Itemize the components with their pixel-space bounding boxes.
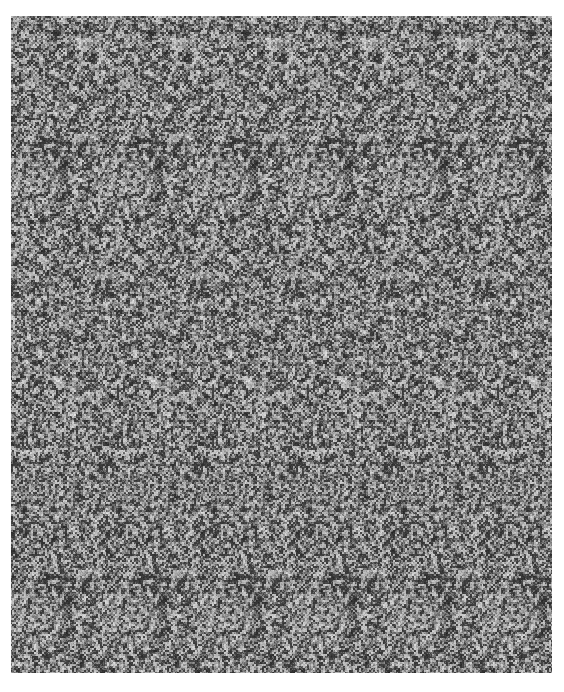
stereogram-noise-canvas (11, 16, 552, 673)
stereogram-image (11, 16, 552, 673)
